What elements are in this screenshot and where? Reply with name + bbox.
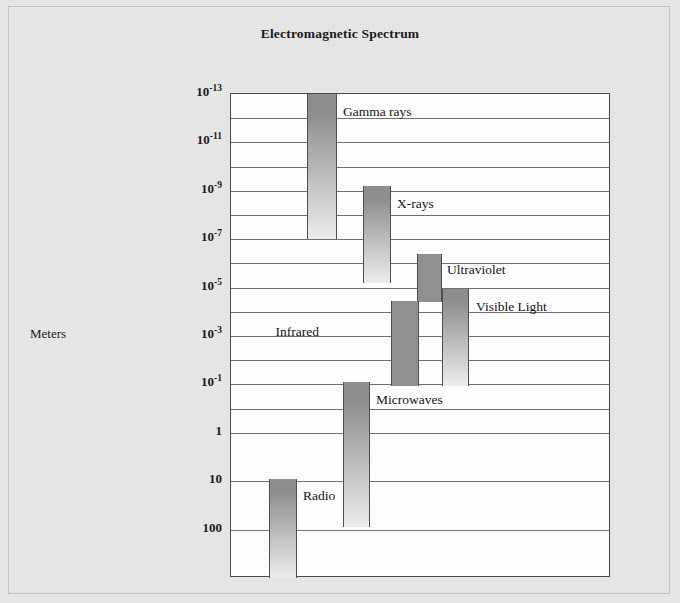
gridline	[231, 409, 609, 410]
spectrum-band	[343, 382, 370, 527]
y-axis-tick-label: 10-7	[162, 229, 222, 245]
gridline	[231, 215, 609, 216]
spectrum-band-label: Visible Light	[476, 299, 547, 315]
y-axis-tick-label: 100	[162, 520, 222, 536]
spectrum-band-label: Microwaves	[376, 392, 443, 408]
spectrum-band-label: Radio	[303, 488, 335, 504]
gridline	[231, 239, 609, 240]
y-axis-tick-label: 10-5	[162, 278, 222, 294]
spectrum-band	[442, 289, 469, 386]
y-axis-tick-label: 1	[162, 423, 222, 439]
spectrum-band	[269, 479, 297, 578]
spectrum-band-label: Gamma rays	[343, 104, 412, 120]
gridline	[231, 118, 609, 119]
y-axis-title: Meters	[30, 326, 66, 342]
scanned-figure-page: Electromagnetic Spectrum Meters 10-1310-…	[0, 0, 680, 603]
spectrum-band-label: Infrared	[231, 324, 319, 340]
page-title: Electromagnetic Spectrum	[0, 26, 680, 42]
gridline	[231, 191, 609, 192]
gridline	[231, 360, 609, 361]
y-axis-tick-label: 10-13	[162, 84, 222, 100]
y-axis-tick-label: 10-11	[162, 132, 222, 148]
gridline	[231, 384, 609, 385]
gridline	[231, 433, 609, 434]
y-axis-tick-label: 10-9	[162, 181, 222, 197]
spectrum-band	[391, 301, 419, 386]
spectrum-band	[307, 94, 337, 239]
spectrum-band-label: X-rays	[397, 196, 434, 212]
y-axis-tick-label: 10-1	[162, 374, 222, 390]
gridline	[231, 142, 609, 143]
gridline	[231, 167, 609, 168]
spectrum-band	[417, 254, 442, 302]
spectrum-band-label: Ultraviolet	[447, 262, 505, 278]
plot-area: Gamma raysX-raysUltravioletVisible Light…	[230, 93, 610, 577]
y-axis-tick-label: 10-3	[162, 326, 222, 342]
spectrum-band	[363, 186, 391, 283]
gridline	[231, 312, 609, 313]
y-axis-tick-label: 10	[162, 471, 222, 487]
